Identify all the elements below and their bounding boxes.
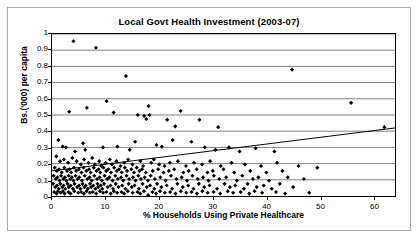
y-axis-title: Bs.('000) per capita — [19, 25, 29, 145]
data-point — [125, 169, 129, 173]
data-point — [73, 149, 77, 153]
data-point — [52, 174, 56, 178]
data-point — [151, 169, 155, 173]
data-point — [195, 191, 199, 195]
data-point — [211, 169, 215, 173]
data-point — [296, 164, 300, 168]
data-point — [239, 190, 243, 194]
data-point — [108, 157, 112, 161]
data-point — [124, 174, 128, 178]
y-tick-label: 0.3 — [12, 144, 48, 152]
data-point — [164, 179, 168, 183]
y-tick-label: 0.6 — [12, 95, 48, 103]
data-point — [136, 174, 140, 178]
data-point — [307, 191, 311, 195]
data-point — [176, 159, 180, 163]
data-point — [232, 170, 236, 174]
data-point — [158, 175, 162, 179]
data-point — [184, 164, 188, 168]
data-point — [235, 179, 239, 183]
data-point — [109, 191, 113, 195]
x-tick-mark — [51, 197, 52, 200]
data-point — [267, 179, 271, 183]
data-point — [286, 175, 290, 179]
data-point — [73, 174, 77, 178]
y-tick-label: 0 — [12, 193, 48, 201]
data-point — [143, 175, 147, 179]
data-point — [135, 166, 139, 170]
data-point — [175, 182, 179, 186]
y-tick-label: 0.9 — [12, 45, 48, 53]
data-point — [187, 169, 191, 173]
data-point — [90, 156, 94, 160]
data-point — [127, 182, 131, 186]
data-point — [160, 145, 164, 149]
data-point — [97, 159, 101, 163]
data-point — [52, 182, 55, 186]
data-point — [213, 148, 217, 152]
data-point — [201, 175, 205, 179]
chart-title: Local Govt Health Investment (2003-07) — [8, 16, 410, 27]
data-point — [64, 145, 68, 149]
data-point — [206, 191, 210, 195]
data-point — [264, 170, 268, 174]
trend-line — [52, 128, 395, 171]
data-point — [131, 175, 135, 179]
data-point — [200, 189, 204, 193]
data-point — [248, 169, 252, 173]
data-point — [169, 174, 173, 178]
data-point — [159, 185, 163, 189]
data-point — [131, 191, 135, 195]
data-point — [233, 183, 237, 187]
data-point — [81, 141, 85, 145]
data-point — [83, 148, 87, 152]
data-point — [70, 156, 74, 160]
y-tick-label: 0.1 — [12, 177, 48, 185]
data-point — [120, 183, 124, 187]
data-point — [283, 191, 287, 195]
y-tick-label: 0.4 — [12, 127, 48, 135]
data-point — [191, 187, 195, 191]
data-point — [218, 191, 222, 195]
data-point — [275, 161, 279, 165]
data-point — [252, 189, 256, 193]
data-point — [280, 169, 284, 173]
data-point — [180, 175, 184, 179]
data-point — [147, 113, 151, 117]
data-point — [162, 164, 166, 168]
data-point — [141, 164, 145, 168]
data-point — [115, 145, 119, 149]
data-point — [75, 159, 79, 163]
data-point — [54, 154, 58, 158]
data-point — [101, 145, 105, 149]
data-point — [254, 146, 258, 150]
data-point — [155, 182, 159, 186]
data-point — [94, 191, 98, 195]
data-point — [224, 175, 228, 179]
x-tick-mark — [159, 197, 160, 200]
data-point — [134, 179, 138, 183]
data-point — [219, 164, 223, 168]
data-point — [142, 189, 146, 193]
data-point — [128, 148, 132, 152]
data-point — [179, 189, 183, 193]
data-point — [123, 166, 127, 170]
data-point — [146, 104, 150, 108]
data-point — [66, 161, 70, 165]
scatter-plot-svg — [52, 34, 395, 196]
data-point — [86, 161, 90, 165]
data-point — [67, 110, 71, 114]
data-point — [237, 149, 241, 153]
data-point — [203, 145, 207, 149]
data-point — [197, 118, 201, 122]
data-point — [56, 138, 60, 142]
data-point — [251, 177, 255, 181]
y-tick-label: 1 — [12, 29, 48, 37]
data-point — [168, 161, 172, 165]
data-point — [278, 182, 282, 186]
data-point — [79, 162, 83, 166]
data-point — [185, 179, 189, 183]
data-point — [195, 167, 199, 171]
data-point — [72, 182, 76, 186]
data-point — [144, 170, 148, 174]
